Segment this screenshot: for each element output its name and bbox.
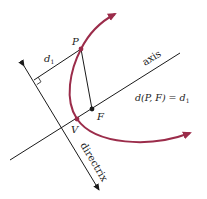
segment-PF — [81, 49, 92, 109]
point-F — [90, 107, 95, 112]
point-P — [79, 47, 84, 52]
label-V: V — [71, 124, 80, 135]
parabola-upper-branch — [81, 14, 115, 49]
axis-line — [10, 53, 180, 160]
equation-label: d(P, F) = d1 — [135, 92, 190, 104]
label-F: F — [96, 111, 105, 122]
label-axis: axis — [140, 48, 163, 68]
parabola-diagram: P d1 F V axis directrix d(P, F) = d1 — [0, 0, 207, 199]
label-directrix: directrix — [78, 140, 110, 183]
point-V — [75, 117, 80, 122]
label-P: P — [71, 36, 79, 47]
label-d1: d1 — [44, 53, 54, 65]
